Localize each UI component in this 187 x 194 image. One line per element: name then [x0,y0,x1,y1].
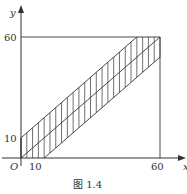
x-axis-label: x [183,161,187,172]
x-tick-60: 60 [151,161,164,172]
y-axis-label: y [9,7,16,18]
figure-canvas: y x O 60 10 10 60 图 1.4 [0,0,187,194]
y-axis-arrow-icon [18,5,24,13]
middle-line [21,37,160,158]
y-tick-60: 60 [4,32,17,43]
figure-caption: 图 1.4 [73,179,102,190]
geometry [2,5,186,166]
y-tick-10: 10 [4,133,17,144]
origin-label: O [10,161,18,172]
x-tick-10: 10 [29,161,42,172]
